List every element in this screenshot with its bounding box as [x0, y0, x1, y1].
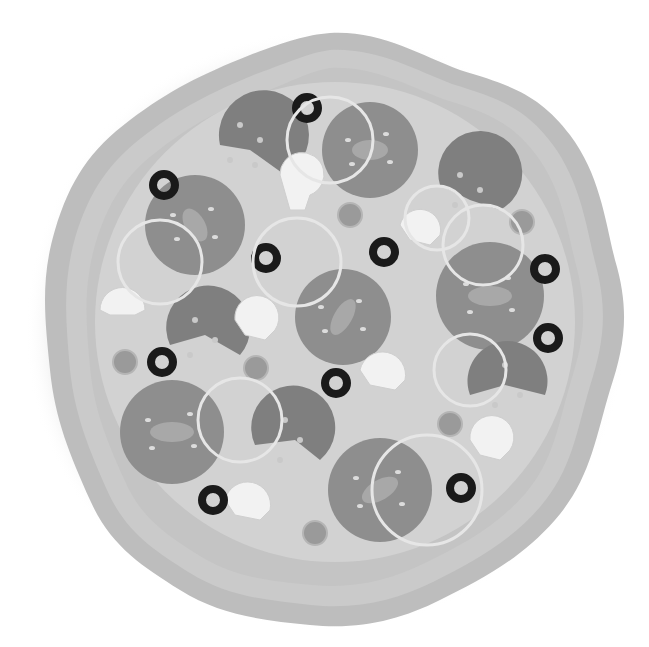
pepper-piece	[113, 350, 137, 374]
pizza-svg	[0, 0, 649, 647]
tomato-slice	[295, 269, 391, 365]
pepper-piece	[244, 356, 268, 380]
pepper-piece	[303, 521, 327, 545]
tomato-slice	[120, 380, 224, 484]
tomato-slice	[145, 175, 245, 275]
pizza-illustration: Pizza illustration (grayscale)	[0, 0, 649, 647]
pepper-piece	[338, 203, 362, 227]
tomato-slice	[436, 242, 544, 350]
pepper-piece	[438, 412, 462, 436]
tomato-slice	[328, 438, 432, 542]
pepper-piece	[510, 210, 534, 234]
